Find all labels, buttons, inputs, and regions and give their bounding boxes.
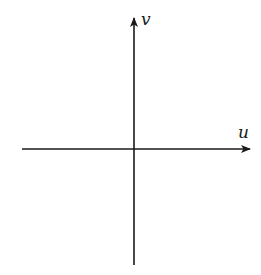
- v-axis-label: v: [141, 11, 151, 28]
- u-axis-label: u: [238, 124, 249, 141]
- axes-drawing: [0, 0, 261, 275]
